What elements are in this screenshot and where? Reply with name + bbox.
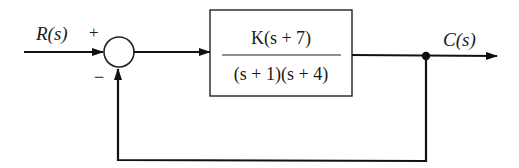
summing-junction [104, 37, 134, 67]
block-diagram: R(s) + − K(s + 7) (s + 1)(s + 4) C(s) [0, 0, 519, 168]
plant-block: K(s + 7) (s + 1)(s + 4) [210, 10, 352, 96]
plant-numerator: K(s + 7) [251, 28, 311, 49]
plus-sign: + [89, 23, 99, 42]
output-label: C(s) [443, 29, 476, 51]
input-label: R(s) [35, 23, 68, 45]
minus-sign: − [94, 67, 104, 87]
plant-denominator: (s + 1)(s + 4) [234, 64, 328, 85]
